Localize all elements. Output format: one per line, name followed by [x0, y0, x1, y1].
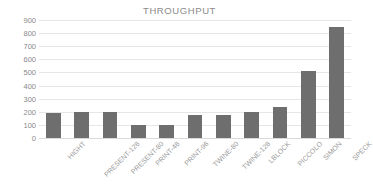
- y-axis-tick-label: 700: [2, 42, 36, 51]
- x-axis-tick-label: TWINE-128: [241, 140, 272, 171]
- x-axis-tick-label: SIMON: [322, 140, 343, 161]
- bar-slot: [301, 20, 316, 138]
- y-axis-tick-label: 0: [2, 134, 36, 143]
- bar-slot: [329, 20, 344, 138]
- chart-title: THROUGHPUT: [0, 5, 359, 16]
- bar-slot: [74, 20, 89, 138]
- bar[interactable]: [159, 125, 174, 138]
- x-axis-tick-label: SPECK: [351, 140, 373, 162]
- bar-slot: [273, 20, 288, 138]
- bar-slot: [103, 20, 118, 138]
- bar-slot: [188, 20, 203, 138]
- x-axis-tick-label: TWINE-80: [212, 140, 240, 168]
- x-axis: HIGHTPRESENT-128PRESENT-80PRINT-48PRINT-…: [39, 140, 351, 190]
- y-axis-tick-label: 800: [2, 29, 36, 38]
- bar[interactable]: [74, 112, 89, 138]
- x-axis-tick-label: PICCOLO: [296, 140, 323, 167]
- bar-slot: [244, 20, 259, 138]
- bar-slot: [46, 20, 61, 138]
- bar-slot: [131, 20, 146, 138]
- bar[interactable]: [216, 115, 231, 138]
- y-axis-tick-label: 100: [2, 120, 36, 129]
- bar-slot: [159, 20, 174, 138]
- bar[interactable]: [46, 113, 61, 138]
- bar[interactable]: [244, 112, 259, 138]
- bar[interactable]: [131, 125, 146, 138]
- bar-slot: [216, 20, 231, 138]
- y-axis-tick-label: 200: [2, 107, 36, 116]
- bar[interactable]: [301, 71, 316, 138]
- y-axis-tick-label: 900: [2, 16, 36, 25]
- bar[interactable]: [103, 112, 118, 138]
- axis-baseline: [39, 138, 351, 139]
- bar[interactable]: [273, 107, 288, 138]
- bar[interactable]: [188, 115, 203, 138]
- bar-series: [39, 20, 351, 138]
- y-axis-tick-label: 400: [2, 81, 36, 90]
- y-axis: 9008007006005004003002001000: [0, 20, 36, 138]
- y-axis-tick-label: 300: [2, 94, 36, 103]
- bar[interactable]: [329, 27, 344, 138]
- y-axis-tick-label: 600: [2, 55, 36, 64]
- y-axis-tick-label: 500: [2, 68, 36, 77]
- x-axis-tick-label: PRINT-96: [183, 140, 210, 167]
- x-axis-tick-label: HIGHT: [67, 140, 87, 160]
